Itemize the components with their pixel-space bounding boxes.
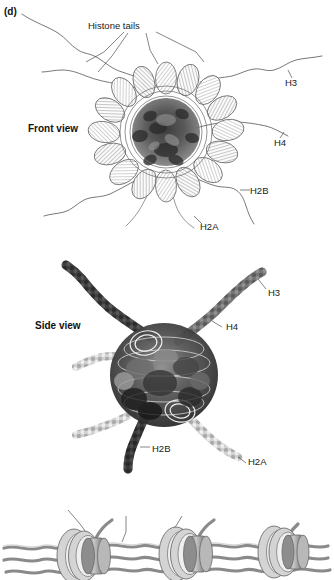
nucleosome-structure-figure: (d)	[0, 0, 334, 580]
front-view-h2b-label: H2B	[250, 185, 268, 196]
side-view-h2a-label: H2A	[248, 456, 266, 467]
beads-on-a-string-chromatin-schematic	[0, 480, 334, 580]
side-view-h2b-label: H2B	[152, 443, 170, 454]
front-view-h4-label: H4	[274, 137, 286, 148]
side-view-label: Side view	[35, 320, 81, 331]
side-view-h4-label: H4	[226, 321, 238, 332]
front-view-h2a-label: H2A	[200, 221, 218, 232]
nucleosome-bead	[159, 527, 213, 580]
panel-d: (d)	[0, 0, 334, 480]
side-view-h3-label: H3	[268, 287, 280, 298]
front-view-label: Front view	[28, 123, 78, 134]
panel-e: (e) DNA Amino-terminal tails Histone oct…	[0, 480, 334, 580]
front-view-h3-label: H3	[285, 77, 297, 88]
histone-tails-callout-label: Histone tails	[88, 20, 140, 31]
nucleosome-bead	[57, 529, 111, 580]
